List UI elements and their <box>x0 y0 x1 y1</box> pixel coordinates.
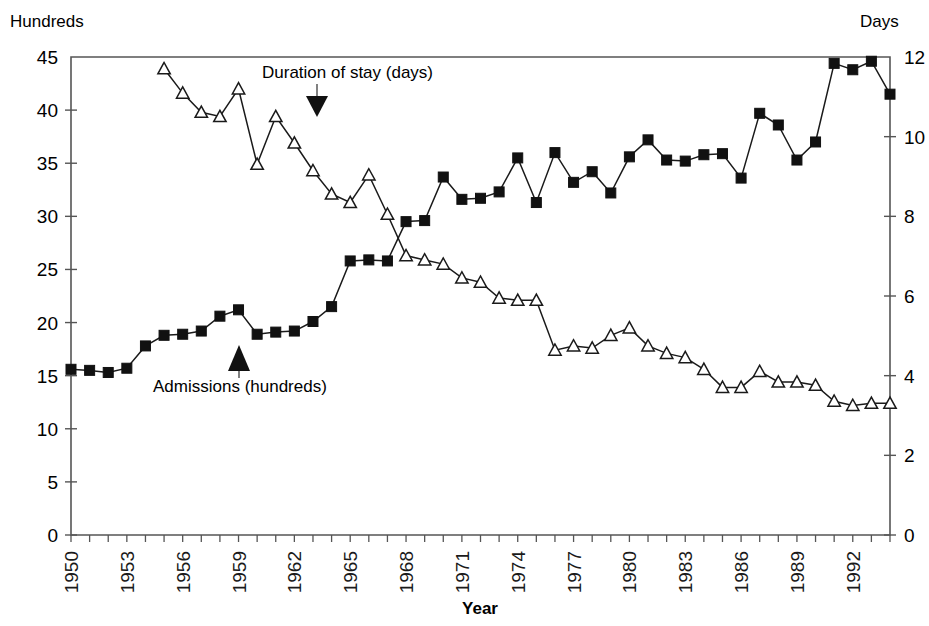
right-tick-label: 2 <box>904 445 915 466</box>
data-point-admissions <box>382 256 392 266</box>
data-point-admissions <box>643 135 653 145</box>
data-point-admissions <box>885 89 895 99</box>
data-point-admissions <box>457 194 467 204</box>
data-point-admissions <box>103 367 113 377</box>
data-point-admissions <box>773 120 783 130</box>
chart-annotations: Duration of stay (days)Admissions (hundr… <box>153 63 433 396</box>
data-point-duration <box>251 158 263 169</box>
data-point-admissions <box>327 302 337 312</box>
data-point-duration <box>232 83 244 94</box>
down-triangle-icon <box>306 96 328 117</box>
data-point-admissions <box>662 155 672 165</box>
data-point-admissions <box>680 156 690 166</box>
data-point-admissions <box>159 330 169 340</box>
left-tick-label: 10 <box>37 419 58 440</box>
x-tick-label: 1989 <box>787 551 808 593</box>
data-point-admissions <box>717 149 727 159</box>
data-point-duration <box>158 62 170 73</box>
data-point-admissions <box>196 326 206 336</box>
left-tick-label: 40 <box>37 100 58 121</box>
x-tick-label: 1953 <box>117 551 138 593</box>
data-point-duration <box>605 329 617 340</box>
data-point-duration <box>270 110 282 121</box>
x-tick-label: 1971 <box>452 551 473 593</box>
x-tick-label: 1980 <box>619 551 640 593</box>
left-tick-label: 0 <box>47 525 58 546</box>
data-point-duration <box>400 249 412 260</box>
data-point-admissions <box>531 198 541 208</box>
data-point-admissions <box>606 188 616 198</box>
data-point-admissions <box>234 305 244 315</box>
data-point-duration <box>344 196 356 207</box>
series-admissions <box>66 56 895 377</box>
data-point-admissions <box>364 255 374 265</box>
data-point-duration <box>567 340 579 351</box>
x-tick-label: 1974 <box>508 551 529 594</box>
left-tick-label: 25 <box>37 259 58 280</box>
data-point-admissions <box>66 364 76 374</box>
data-point-duration <box>363 169 375 180</box>
data-point-admissions <box>829 58 839 68</box>
data-point-duration <box>288 137 300 148</box>
data-point-admissions <box>811 137 821 147</box>
x-tick-label: 1950 <box>61 551 82 593</box>
right-tick-label: 8 <box>904 206 915 227</box>
x-tick-label: 1965 <box>340 551 361 593</box>
x-tick-label: 1968 <box>396 551 417 593</box>
data-point-admissions <box>699 150 709 160</box>
x-tick-label: 1977 <box>564 551 585 593</box>
data-point-admissions <box>792 155 802 165</box>
data-point-admissions <box>587 167 597 177</box>
data-point-duration <box>660 347 672 358</box>
data-point-duration <box>381 208 393 219</box>
data-point-admissions <box>215 311 225 321</box>
x-tick-label: 1962 <box>284 551 305 593</box>
right-tick-label: 4 <box>904 366 915 387</box>
data-point-admissions <box>85 365 95 375</box>
data-point-admissions <box>569 177 579 187</box>
series-duration <box>158 62 896 410</box>
data-point-admissions <box>494 187 504 197</box>
data-point-admissions <box>122 363 132 373</box>
chart-canvas: 051015202530354045 024681012 19501953195… <box>0 0 929 626</box>
data-point-admissions <box>736 173 746 183</box>
data-point-admissions <box>866 56 876 66</box>
data-point-admissions <box>550 148 560 158</box>
data-point-admissions <box>755 108 765 118</box>
left-tick-label: 15 <box>37 366 58 387</box>
right-tick-label: 10 <box>904 127 925 148</box>
left-tick-label: 5 <box>47 472 58 493</box>
data-point-admissions <box>178 329 188 339</box>
data-point-admissions <box>476 193 486 203</box>
x-axis-title: Year <box>462 599 498 618</box>
right-tick-label: 6 <box>904 286 915 307</box>
data-point-admissions <box>848 65 858 75</box>
data-point-admissions <box>420 216 430 226</box>
chart-page: Hundreds Days 051015202530354045 0246810… <box>0 0 929 626</box>
data-point-admissions <box>289 326 299 336</box>
plot-frame <box>71 57 890 535</box>
x-axis-ticks: 1950195319561959196219651968197119741977… <box>61 535 890 593</box>
x-tick-label: 1959 <box>229 551 250 593</box>
up-triangle-icon <box>228 345 250 371</box>
right-tick-label: 0 <box>904 525 915 546</box>
data-point-duration <box>623 322 635 333</box>
x-tick-label: 1992 <box>843 551 864 593</box>
data-point-admissions <box>624 152 634 162</box>
data-point-duration <box>456 272 468 283</box>
left-tick-label: 30 <box>37 206 58 227</box>
data-point-duration <box>307 164 319 175</box>
right-tick-label: 12 <box>904 47 925 68</box>
duration-series-label: Duration of stay (days) <box>262 63 433 82</box>
data-point-duration <box>754 365 766 376</box>
data-point-admissions <box>271 327 281 337</box>
x-tick-label: 1986 <box>731 551 752 593</box>
left-tick-label: 20 <box>37 313 58 334</box>
admissions-series-label: Admissions (hundreds) <box>153 377 327 396</box>
data-point-admissions <box>140 341 150 351</box>
x-tick-label: 1983 <box>675 551 696 593</box>
data-point-duration <box>698 363 710 374</box>
data-point-admissions <box>438 172 448 182</box>
data-point-admissions <box>252 329 262 339</box>
data-point-admissions <box>401 217 411 227</box>
